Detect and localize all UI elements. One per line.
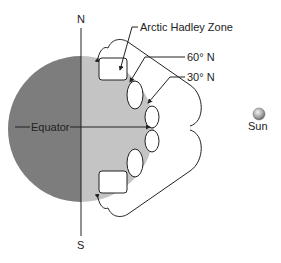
atmospheric-circulation-diagram: N S Equator Arctic Hadley Zone 60° N 30°… [0, 0, 281, 263]
lat-60-label: 60° N [187, 51, 215, 63]
hadley-cell-south [145, 130, 159, 152]
south-label: S [77, 239, 84, 251]
lat-30-label: 30° N [187, 71, 215, 83]
sun-label: Sun [248, 120, 268, 132]
north-label: N [77, 13, 85, 25]
sun-icon [253, 108, 265, 120]
arctic-hadley-zone-label: Arctic Hadley Zone [140, 21, 233, 33]
equator-label: Equator [31, 121, 70, 133]
ferrel-cell-north [127, 81, 143, 109]
arctic-cell-south [99, 171, 127, 193]
lat-30-leader [148, 77, 185, 103]
ferrel-cell-south [127, 149, 143, 177]
hadley-cell-north [145, 106, 159, 128]
lat-60-leader [130, 57, 185, 82]
